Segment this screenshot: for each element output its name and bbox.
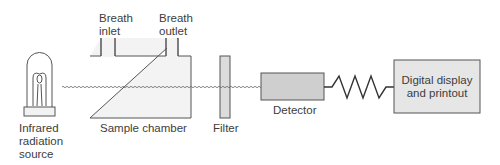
inlet-label-line-1: Breath	[99, 12, 133, 25]
lamp-filament-outer	[33, 73, 46, 106]
lamp-base	[24, 107, 55, 116]
lamp-filament-loop	[37, 75, 42, 83]
breath-outlet-label: Breath outlet	[159, 12, 193, 38]
filter-label: Filter	[213, 122, 239, 135]
signal-wire	[324, 76, 394, 98]
source-label-line-2: radiation	[19, 135, 63, 148]
detector	[261, 73, 324, 100]
display-label: Digital display and printout	[394, 74, 480, 100]
breath-inlet-tube	[102, 38, 114, 57]
infrared-beam	[62, 86, 262, 87]
breath-inlet-label: Breath inlet	[99, 12, 133, 38]
infrared-source-label: Infrared radiation source	[19, 122, 63, 161]
inlet-label-line-2: inlet	[99, 25, 133, 38]
lamp-bulb	[27, 52, 52, 107]
source-label-line-1: Infrared	[19, 122, 63, 135]
infrared-source-icon	[24, 52, 55, 116]
source-label-line-3: source	[19, 148, 63, 161]
lamp-filament-inner	[37, 84, 42, 106]
detector-label: Detector	[273, 104, 316, 117]
sample-chamber-label: Sample chamber	[100, 122, 187, 135]
breath-outlet-tube	[167, 38, 177, 57]
display-label-line-1: Digital display	[394, 74, 480, 87]
display-label-line-2: and printout	[394, 87, 480, 100]
outlet-label-line-1: Breath	[159, 12, 193, 25]
outlet-label-line-2: outlet	[159, 25, 193, 38]
